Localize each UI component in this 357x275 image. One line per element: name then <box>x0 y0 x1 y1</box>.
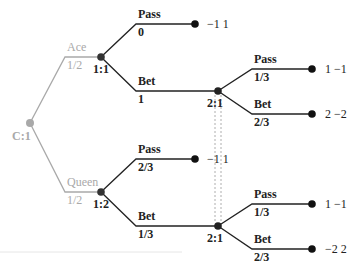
move-queen-prob: 1/2 <box>67 193 82 207</box>
ace-bet-label: Bet <box>138 74 155 88</box>
leaf-ace-p2-bet <box>308 110 316 118</box>
move-ace-prob: 1/2 <box>67 58 82 72</box>
queen-bet-label: Bet <box>138 209 155 223</box>
p1-node-queen <box>97 188 105 196</box>
ace-bet-prob: 1 <box>138 92 144 106</box>
ace-p2-bet-label: Bet <box>254 97 271 111</box>
move-ace-label: Ace <box>67 40 86 54</box>
game-tree-diagram: C:1 1:1 1:2 2:1 2:1 Ace 1/2 Queen 1/2 Pa… <box>0 0 357 275</box>
payoff-queen-pass: −1 1 <box>207 152 229 166</box>
p1-node-ace <box>97 53 105 61</box>
queen-p2-bet-prob: 2/3 <box>254 250 269 264</box>
edge-queen-bet <box>101 192 218 226</box>
queen-bet-prob: 1/3 <box>138 227 153 241</box>
edge-ace-bet <box>101 57 218 91</box>
leaf-queen-pass <box>191 155 199 163</box>
leaf-ace-pass <box>191 20 199 28</box>
payoff-queen-p2-bet: −2 2 <box>325 242 347 256</box>
leaf-queen-p2-pass <box>308 200 316 208</box>
p2-node-lower-label: 2:1 <box>207 231 223 245</box>
queen-p2-pass-label: Pass <box>254 187 277 201</box>
payoff-queen-p2-pass: 1 −1 <box>325 197 347 211</box>
ace-p2-bet-prob: 2/3 <box>254 115 269 129</box>
chance-node <box>26 119 34 127</box>
edge-ace-pass <box>101 24 195 57</box>
edge-ace <box>30 57 101 123</box>
p1-node-ace-label: 1:1 <box>93 62 109 76</box>
queen-pass-prob: 2/3 <box>138 160 153 174</box>
queen-pass-label: Pass <box>138 142 161 156</box>
p2-node-upper-label: 2:1 <box>207 96 223 110</box>
p1-node-queen-label: 1:2 <box>93 197 109 211</box>
queen-p2-pass-prob: 1/3 <box>254 205 269 219</box>
ace-pass-prob: 0 <box>138 25 144 39</box>
leaf-queen-p2-bet <box>308 245 316 253</box>
ace-p2-pass-label: Pass <box>254 52 277 66</box>
payoff-ace-p2-pass: 1 −1 <box>325 62 347 76</box>
payoff-ace-p2-bet: 2 −2 <box>325 107 347 121</box>
ace-pass-label: Pass <box>138 7 161 21</box>
ace-p2-pass-prob: 1/3 <box>254 70 269 84</box>
chance-node-label: C:1 <box>12 129 31 143</box>
payoff-ace-pass: −1 1 <box>207 17 229 31</box>
p2-node-upper <box>214 87 222 95</box>
p2-node-lower <box>214 222 222 230</box>
queen-p2-bet-label: Bet <box>254 232 271 246</box>
move-queen-label: Queen <box>67 175 98 189</box>
leaf-ace-p2-pass <box>308 65 316 73</box>
